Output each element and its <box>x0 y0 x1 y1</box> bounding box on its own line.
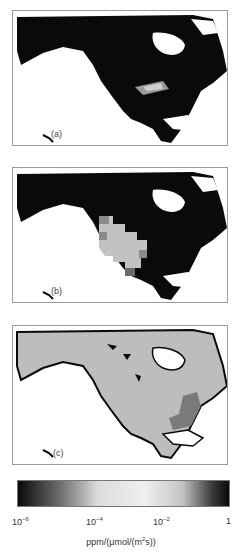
colorbar-tick-1e-4: 10−4 <box>86 516 103 527</box>
map-panel-c: (c) <box>12 325 228 465</box>
north-america-map-c <box>13 326 228 465</box>
north-america-map-b <box>13 168 228 303</box>
colorbar-tick-1e-6: 10−6 <box>12 516 29 527</box>
colorbar-tick-1e-2: 10−2 <box>153 516 170 527</box>
map-panel-a: (a) <box>12 10 228 146</box>
panel-label-b: (b) <box>51 286 62 296</box>
panel-label-a: (a) <box>51 129 62 139</box>
panel-label-c: (c) <box>53 448 64 458</box>
colorbar <box>17 480 230 507</box>
map-panel-b: (b) <box>12 167 228 303</box>
colorbar-unit-label: ppm/(μmol/(m2s)) <box>0 536 242 547</box>
north-america-map-a <box>13 11 228 146</box>
colorbar-tick-1: 1 <box>226 516 231 526</box>
